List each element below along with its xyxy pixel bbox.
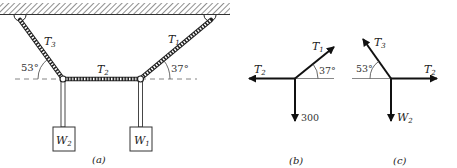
caption-b: (b)	[289, 155, 303, 166]
angle-label-37: 37°	[171, 63, 189, 74]
angle-arc-b	[313, 64, 318, 79]
label-t2: T2	[97, 63, 109, 77]
panel-c: T3 T2 53° W2 (c)	[352, 36, 437, 166]
angle-label-c: 53°	[356, 63, 373, 74]
caption-a: (a)	[92, 154, 106, 165]
label-t2-c: T2	[424, 63, 436, 77]
angle-label-b: 37°	[319, 65, 336, 76]
label-t1-b: T1	[312, 40, 324, 54]
angle-label-53: 53°	[21, 62, 39, 73]
left-junction-icon	[60, 76, 66, 82]
hanger-right	[139, 81, 143, 127]
panel-a: T3 T1 T2 53° 37° W2 W1 (a)	[0, 3, 230, 165]
free-body-diagram: T3 T1 T2 53° 37° W2 W1 (a) T2 T1 37° 300…	[0, 0, 457, 168]
load-label-b: 300	[301, 112, 319, 123]
right-junction-icon	[138, 76, 144, 82]
angle-arc-left	[38, 59, 48, 79]
label-t1: T1	[168, 33, 180, 47]
caption-c: (c)	[393, 155, 407, 166]
angle-arc-right	[164, 60, 171, 79]
label-w-c: W2	[397, 111, 413, 125]
label-t3-c: T3	[374, 36, 386, 50]
label-t2-b: T2	[254, 63, 266, 77]
ceiling-hatch	[0, 3, 230, 14]
label-t3: T3	[44, 35, 56, 49]
hanger-left	[61, 81, 65, 127]
panel-b: T2 T1 37° 300 (b)	[249, 40, 336, 166]
